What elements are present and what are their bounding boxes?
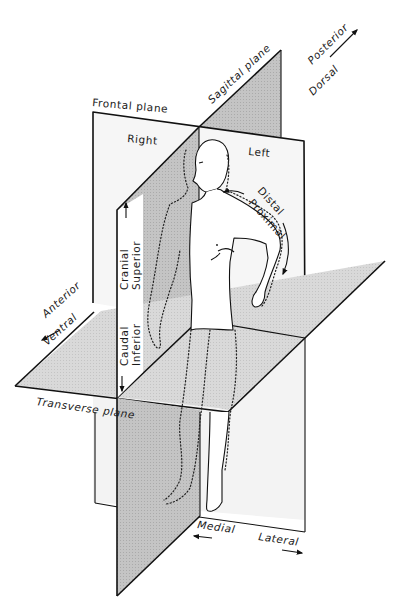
- frontal-plane-label: Frontal plane: [92, 96, 169, 115]
- left-side-label: Left: [248, 145, 271, 159]
- dorsal-label: Dorsal: [306, 63, 341, 98]
- cranial-label: Cranial: [118, 249, 130, 290]
- anatomical-planes-diagram: Frontal plane Sagittal plane Transverse …: [0, 0, 393, 612]
- lateral-arrow: [282, 550, 302, 553]
- sagittal-plane-lower: [117, 398, 200, 596]
- caudal-label: Caudal: [118, 326, 130, 366]
- anterior-label: Anterior: [39, 279, 83, 320]
- superior-label: Superior: [130, 241, 142, 290]
- inferior-label: Inferior: [130, 323, 142, 366]
- medial-label: Medial: [197, 518, 236, 535]
- medial-arrow: [194, 536, 212, 538]
- lateral-label: Lateral: [258, 530, 300, 548]
